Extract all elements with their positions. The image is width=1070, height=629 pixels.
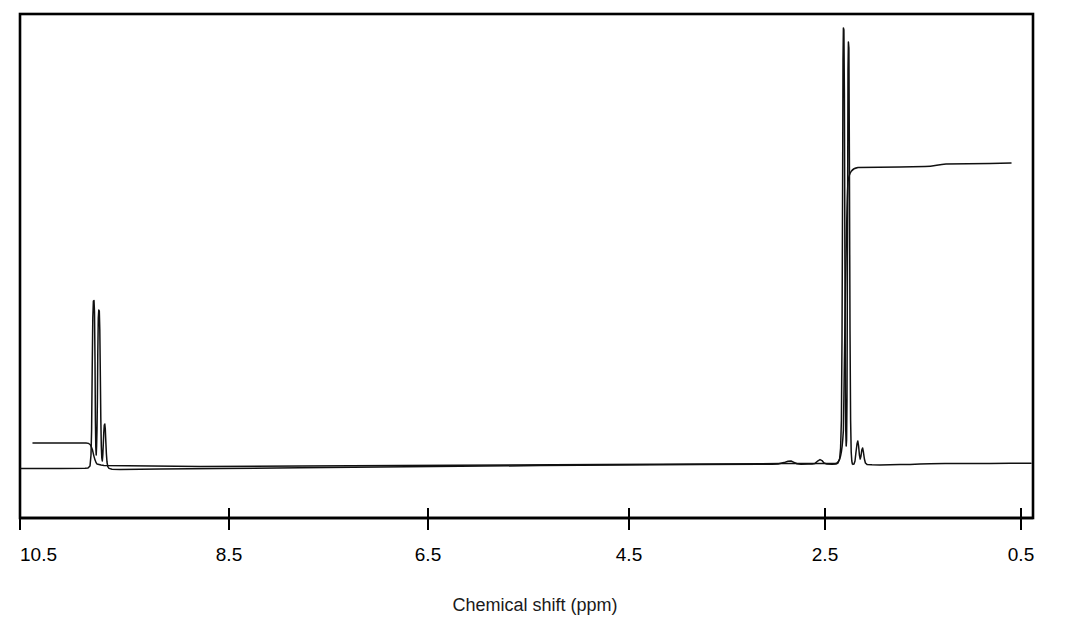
tick-label-0-5: 0.5 bbox=[1008, 544, 1034, 565]
tick-label-4-5: 4.5 bbox=[616, 544, 642, 565]
tick-label-2-5: 2.5 bbox=[812, 544, 838, 565]
tick-label-10-5: 10.5 bbox=[20, 544, 57, 565]
tick-label-6-5: 6.5 bbox=[415, 544, 441, 565]
nmr-spectrum-figure: 10.5 8.5 6.5 4.5 2.5 0.5 Chemical shift … bbox=[0, 0, 1070, 629]
spectrum-trace bbox=[21, 28, 1031, 469]
x-axis-title: Chemical shift (ppm) bbox=[452, 595, 617, 615]
plot-frame bbox=[20, 14, 1033, 518]
integral-curve bbox=[33, 163, 1011, 467]
spectrum-canvas: 10.5 8.5 6.5 4.5 2.5 0.5 Chemical shift … bbox=[0, 0, 1070, 629]
tick-label-8-5: 8.5 bbox=[216, 544, 242, 565]
